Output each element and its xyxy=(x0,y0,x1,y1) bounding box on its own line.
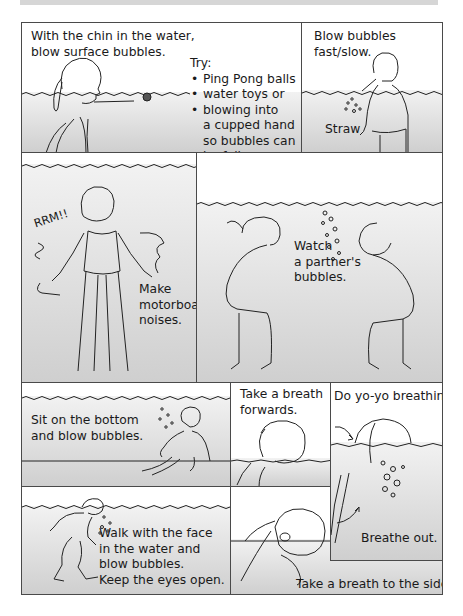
outer-frame xyxy=(21,22,443,595)
top-gray-bar xyxy=(20,0,438,5)
